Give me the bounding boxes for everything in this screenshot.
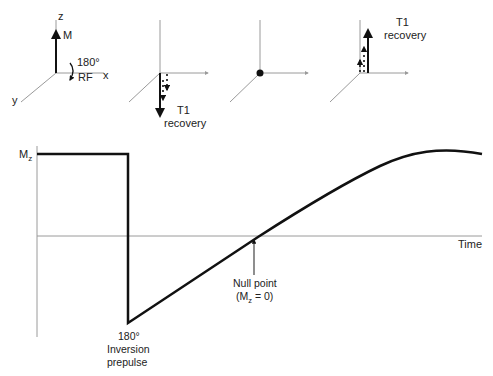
x-axis-label: x <box>103 69 109 81</box>
pulse-rf-label: RF <box>78 71 93 83</box>
mz-axis-label: Mz <box>19 148 32 163</box>
caption-t1: T1 <box>396 16 409 28</box>
panel-null <box>230 20 308 102</box>
y-axis-label: y <box>12 94 18 106</box>
panel-recovered: T1 recovery <box>330 16 427 102</box>
mz-time-graph: Mz Time Null point (Mz = 0) 180° Inversi… <box>19 146 482 368</box>
null-point-condition: (Mz = 0) <box>236 290 273 305</box>
inversion-angle-label: 180° <box>118 330 140 342</box>
null-point-label: Null point <box>233 277 277 289</box>
panel-initial: z M x y 180° RF <box>12 10 109 106</box>
inversion-recovery-diagram: z M x y 180° RF T1 recovery T1 recovery <box>0 0 493 376</box>
time-axis-label: Time <box>458 238 482 250</box>
inversion-label: Inversion <box>107 343 150 355</box>
y-axis <box>330 73 360 102</box>
y-axis <box>21 73 56 102</box>
y-axis <box>230 73 260 102</box>
rotation-arrow-icon <box>70 63 73 80</box>
caption-t1: T1 <box>177 104 190 116</box>
pulse-angle-label: 180° <box>77 56 100 68</box>
caption-recovery: recovery <box>384 29 427 41</box>
panel-inverted: T1 recovery <box>129 20 208 129</box>
null-magnetization-dot <box>257 70 264 77</box>
vector-label-m: M <box>63 29 72 41</box>
prepulse-label: prepulse <box>107 356 147 368</box>
y-axis <box>129 73 160 102</box>
caption-recovery: recovery <box>164 117 207 129</box>
z-axis-label: z <box>58 10 64 22</box>
